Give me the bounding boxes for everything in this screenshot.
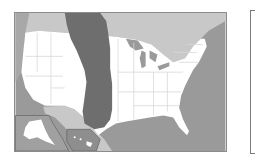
map-svg: [15, 13, 226, 151]
side-panel-bracket: [250, 10, 255, 154]
us-map: [14, 12, 227, 152]
